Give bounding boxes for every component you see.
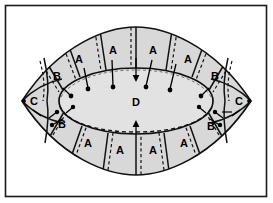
label-top-a-2: A [109, 44, 117, 56]
label-top-a-1: A [75, 53, 83, 65]
label-bottom-a-1: A [84, 137, 92, 149]
label-top-right-b: B [211, 70, 219, 82]
label-bottom-left-b: B [58, 118, 66, 130]
label-top-a-3: A [149, 44, 157, 56]
label-bottom-right-b: B [207, 120, 215, 132]
label-core-d: D [132, 96, 140, 108]
label-top-left-b: B [53, 70, 61, 82]
label-right-c: C [235, 95, 243, 107]
label-left-c: C [30, 95, 38, 107]
label-bottom-a-4: A [180, 137, 188, 149]
label-bottom-a-3: A [149, 144, 157, 156]
diagram-figure: A A A A A A A A B B B B C C D [0, 0, 273, 203]
label-bottom-a-2: A [116, 144, 124, 156]
label-top-a-4: A [184, 53, 192, 65]
diagram-canvas: A A A A A A A A B B B B C C D [0, 0, 273, 203]
